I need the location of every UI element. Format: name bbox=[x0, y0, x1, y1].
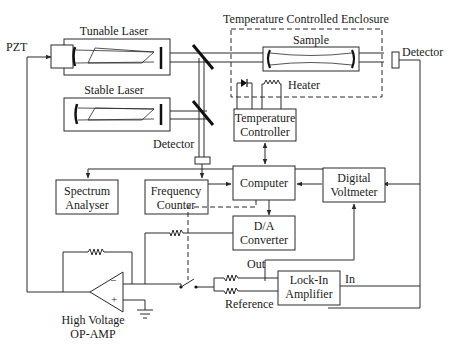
switch-terminal-right bbox=[194, 285, 197, 288]
beam-splitter-bottom-icon bbox=[193, 101, 213, 125]
frequency-counter-label-1: Frequency bbox=[151, 184, 202, 198]
beam-splitter-top-icon bbox=[193, 45, 213, 69]
computer-label: Computer bbox=[240, 176, 288, 190]
lockin-reference-label: Reference bbox=[225, 297, 274, 311]
ground-icon bbox=[137, 310, 153, 318]
spectrum-analyser-label-2: Analyser bbox=[65, 198, 108, 212]
da-converter-label-1: D/A bbox=[254, 219, 275, 233]
opamp-label-2: OP-AMP bbox=[70, 327, 116, 341]
stable-laser-label: Stable Laser bbox=[84, 83, 144, 97]
lockin-in-label: In bbox=[345, 272, 355, 286]
pzt-block bbox=[51, 45, 73, 68]
da-converter-label-2: Converter bbox=[240, 233, 288, 247]
lockin-out-label: Out bbox=[247, 257, 266, 271]
tunable-laser-housing bbox=[64, 39, 170, 75]
temperature-controller-label-1: Temperature bbox=[235, 111, 295, 125]
sample-housing bbox=[263, 47, 359, 71]
detector-right-label: Detector bbox=[402, 45, 443, 59]
stable-laser-housing bbox=[64, 98, 170, 131]
detector-left-label: Detector bbox=[153, 137, 194, 151]
opamp-minus-label: − bbox=[110, 274, 116, 286]
detector-left-icon bbox=[195, 157, 210, 164]
temperature-controller-label-2: Controller bbox=[240, 125, 289, 139]
tunable-laser: Tunable Laser bbox=[51, 24, 170, 75]
enclosure-label: Temperature Controlled Enclosure bbox=[223, 12, 389, 26]
lockin-label-2: Amplifier bbox=[285, 287, 332, 301]
opamp-to-pzt-wire bbox=[27, 57, 90, 292]
opamp-triangle-icon bbox=[90, 272, 123, 312]
tunable-laser-label: Tunable Laser bbox=[80, 24, 149, 38]
digital-voltmeter-label-2: Voltmeter bbox=[330, 185, 377, 199]
laser-spectroscopy-setup-diagram: Tunable Laser PZT Stable Laser Temperatu… bbox=[0, 0, 464, 354]
opamp-label-1: High Voltage bbox=[61, 313, 124, 327]
frequency-counter-label-2: Counter bbox=[157, 198, 196, 212]
digital-voltmeter-label-1: Digital bbox=[337, 171, 371, 185]
heater-label: Heater bbox=[288, 78, 320, 92]
detector-right-icon bbox=[392, 52, 399, 68]
opamp-plus-label: + bbox=[111, 293, 117, 305]
switch-blade-icon[interactable] bbox=[181, 279, 194, 287]
heater-resistor-icon bbox=[262, 80, 281, 109]
sample-cell: Sample bbox=[263, 33, 359, 71]
spectrum-analyser-label-1: Spectrum bbox=[64, 184, 111, 198]
sample-label: Sample bbox=[293, 33, 329, 47]
diode-sensor-icon bbox=[237, 79, 252, 109]
lockin-label-1: Lock-In bbox=[290, 273, 329, 287]
pzt-label: PZT bbox=[6, 40, 28, 54]
stable-laser: Stable Laser bbox=[64, 83, 170, 131]
high-voltage-opamp: − + bbox=[90, 272, 123, 312]
